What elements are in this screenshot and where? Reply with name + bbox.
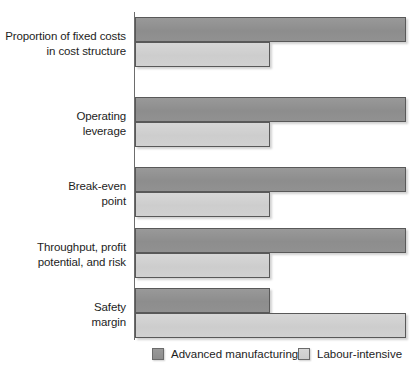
chart-legend: Advanced manufacturing Labour-intensive	[135, 345, 420, 363]
bar-advanced-manufacturing[interactable]	[135, 97, 406, 122]
bar-advanced-manufacturing[interactable]	[135, 288, 270, 313]
bar-advanced-manufacturing[interactable]	[135, 167, 406, 192]
category-label-line: Proportion of fixed costs	[5, 30, 126, 42]
bar-advanced-manufacturing[interactable]	[135, 17, 406, 42]
bar-labour-intensive[interactable]	[135, 313, 406, 338]
category-label-line: point	[102, 195, 126, 207]
legend-item-advanced-manufacturing[interactable]: Advanced manufacturing	[152, 345, 298, 363]
bar-advanced-manufacturing[interactable]	[135, 228, 406, 253]
legend-label: Labour-intensive	[317, 348, 402, 360]
bar-labour-intensive[interactable]	[135, 253, 270, 278]
category-label-line: margin	[91, 316, 126, 328]
category-label: Throughput, profit potential, and risk	[0, 240, 126, 269]
bar-labour-intensive[interactable]	[135, 42, 270, 67]
category-label: Operating leverage	[0, 109, 126, 138]
category-label-line: Break-even	[68, 180, 126, 192]
category-label-line: Operating	[76, 110, 126, 122]
chart-row: Break-even point	[0, 167, 420, 217]
bar-labour-intensive[interactable]	[135, 122, 270, 147]
category-label-line: leverage	[83, 125, 126, 137]
category-label: Proportion of fixed costs in cost struct…	[0, 29, 126, 58]
legend-item-labour-intensive[interactable]: Labour-intensive	[298, 345, 402, 363]
legend-label: Advanced manufacturing	[171, 348, 298, 360]
category-label-line: Safety	[94, 301, 126, 313]
legend-swatch-icon	[298, 348, 310, 360]
chart-row: Safety margin	[0, 288, 420, 338]
chart-row: Operating leverage	[0, 97, 420, 147]
chart-row: Throughput, profit potential, and risk	[0, 228, 420, 278]
category-label-line: in cost structure	[47, 45, 126, 57]
category-label-line: potential, and risk	[38, 256, 126, 268]
category-label: Break-even point	[0, 179, 126, 208]
bar-chart: Proportion of fixed costs in cost struct…	[0, 0, 420, 370]
chart-row: Proportion of fixed costs in cost struct…	[0, 17, 420, 67]
category-label: Safety margin	[0, 300, 126, 329]
bar-labour-intensive[interactable]	[135, 192, 270, 217]
legend-swatch-icon	[152, 348, 164, 360]
category-label-line: Throughput, profit	[37, 241, 126, 253]
